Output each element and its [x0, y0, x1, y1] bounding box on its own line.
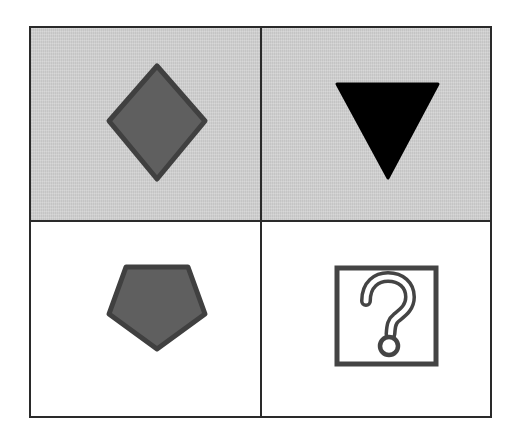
cell-bottom-right: Missing answer [262, 222, 490, 416]
inverted-triangle-icon [262, 28, 490, 221]
vertical-divider [260, 28, 262, 416]
cell-bottom-left: Gray pentagon on white background [31, 222, 261, 416]
diamond-icon [31, 28, 261, 221]
horizontal-divider [31, 220, 490, 222]
question-mark-box-icon [262, 222, 490, 416]
cell-top-left: Gray diamond on shaded background [31, 28, 261, 221]
pentagon-icon [31, 222, 261, 416]
puzzle-grid: Gray diamond on shaded background Black … [29, 26, 492, 418]
cell-top-right: Black downward triangle on shaded backgr… [262, 28, 490, 221]
